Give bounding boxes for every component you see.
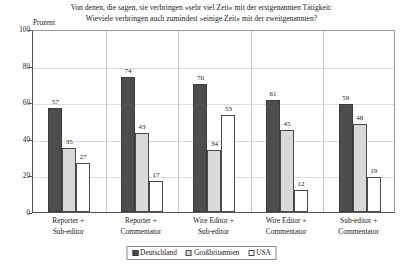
y-axis-label: Prozent (33, 19, 55, 27)
bar-value-label: 17 (152, 171, 159, 179)
bar-value-label: 19 (370, 167, 377, 175)
y-tick-label: 0 (4, 209, 30, 217)
legend-label: Großbritannien (194, 248, 239, 257)
x-category-label-line: Commentator (322, 227, 395, 238)
bar[interactable]: 59 (339, 104, 353, 212)
bar-value-label: 61 (270, 90, 277, 98)
bar[interactable]: 27 (76, 163, 90, 212)
bar-group: 594819 (323, 31, 396, 212)
y-tick-label: 20 (4, 172, 30, 180)
bar-value-label: 12 (298, 180, 305, 188)
bar-group: 744317 (106, 31, 179, 212)
bar-value-label: 70 (197, 74, 204, 82)
x-category-label-line: Reporter + (32, 216, 105, 227)
x-axis-category-labels: Reporter +Sub-editorReporter +Commentato… (32, 216, 395, 240)
bar-group: 614512 (251, 31, 324, 212)
bar[interactable]: 48 (353, 124, 367, 212)
bar-group: 573527 (33, 31, 106, 212)
x-category-label-line: Reporter + (105, 216, 178, 227)
bar-value-label: 74 (124, 67, 131, 75)
legend-item[interactable]: Deutschland (132, 248, 177, 257)
bar-value-label: 45 (284, 120, 291, 128)
chart-legend: DeutschlandGroßbritannienUSA (126, 246, 277, 260)
bar-value-label: 27 (80, 153, 87, 161)
bar-group: 703453 (178, 31, 251, 212)
bar[interactable]: 45 (280, 130, 294, 212)
y-tick-label: 80 (4, 63, 30, 71)
bar[interactable]: 34 (207, 150, 221, 212)
bar-value-label: 59 (342, 94, 349, 102)
legend-swatch (132, 250, 138, 256)
y-axis-ticks: 020406080100 (0, 30, 30, 213)
bar-value-label: 43 (138, 123, 145, 131)
legend-label: Deutschland (140, 248, 177, 257)
x-category-label: Reporter +Sub-editor (32, 216, 105, 237)
bar[interactable]: 17 (149, 181, 163, 212)
legend-swatch (248, 250, 254, 256)
bar-value-label: 53 (225, 105, 232, 113)
x-category-label-line: Sub-editor (32, 227, 105, 238)
y-tick-label: 100 (4, 26, 30, 34)
bar[interactable]: 53 (221, 115, 235, 212)
x-category-label: Sub-editor +Commentator (322, 216, 395, 237)
x-category-label-line: Sub-editor + (322, 216, 395, 227)
x-category-label: Wire Editor +Commentator (250, 216, 323, 237)
y-tick-label: 60 (4, 99, 30, 107)
bar[interactable]: 35 (62, 148, 76, 212)
bar[interactable]: 70 (193, 84, 207, 212)
x-category-label: Reporter +Commentator (105, 216, 178, 237)
legend-swatch (186, 250, 192, 256)
chart-canvas: Prozent 020406080100 5735277443177034536… (0, 0, 403, 272)
y-tick-mark (28, 213, 32, 214)
bar[interactable]: 12 (294, 190, 308, 212)
x-category-label-line: Wire Editor + (177, 216, 250, 227)
bar-value-label: 34 (211, 140, 218, 148)
plot-area: 573527744317703453614512594819 (32, 30, 395, 213)
x-category-label-line: Commentator (105, 227, 178, 238)
x-category-label: Wire Editor +Sub-editor (177, 216, 250, 237)
bar[interactable]: 74 (121, 77, 135, 212)
x-category-label-line: Sub-editor (177, 227, 250, 238)
x-category-label-line: Commentator (250, 227, 323, 238)
legend-item[interactable]: USA (248, 248, 271, 257)
bar-value-label: 57 (52, 98, 59, 106)
bar-value-label: 35 (66, 138, 73, 146)
bar[interactable]: 57 (48, 108, 62, 212)
bar[interactable]: 19 (367, 177, 381, 212)
x-category-label-line: Wire Editor + (250, 216, 323, 227)
bar-value-label: 48 (356, 114, 363, 122)
bar[interactable]: 61 (266, 100, 280, 212)
bar[interactable]: 43 (135, 133, 149, 212)
y-tick-label: 40 (4, 136, 30, 144)
legend-label: USA (256, 248, 271, 257)
legend-item[interactable]: Großbritannien (186, 248, 239, 257)
